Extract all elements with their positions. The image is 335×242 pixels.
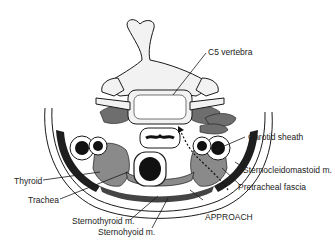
approach-arrow-icon [178, 126, 184, 133]
label-c5-vertebra: C5 vertebra [208, 48, 252, 57]
vertebral-body-inner [134, 95, 186, 119]
label-pretracheal-fascia: Pretracheal fascia [238, 183, 306, 192]
trachea [134, 152, 166, 186]
esophagus [140, 128, 180, 148]
neck-cross-section-diagram [0, 0, 335, 242]
label-sternothyroid: Sternothyroid m. [72, 217, 134, 226]
label-thyroid: Thyroid [14, 177, 42, 186]
label-trachea: Trachea [28, 196, 59, 205]
label-carotid-sheath: Carotid sheath [248, 133, 303, 142]
label-approach: APPROACH [205, 213, 253, 222]
label-sternohyoid: Sternohyoid m. [98, 228, 155, 237]
label-sternocleidomastoid: Sternocleidomastoid m. [243, 166, 332, 175]
strap-muscles [100, 186, 214, 203]
